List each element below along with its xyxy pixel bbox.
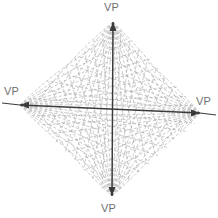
perspective-grid-diagram: VP VP VP VP	[0, 0, 218, 218]
vanishing-point-label-bottom: VP	[101, 203, 116, 214]
vanishing-point-label-top: VP	[104, 2, 119, 13]
vanishing-point-label-left: VP	[4, 86, 19, 97]
vanishing-point-label-right: VP	[196, 96, 211, 107]
vanishing-point-grid-svg	[0, 0, 218, 218]
